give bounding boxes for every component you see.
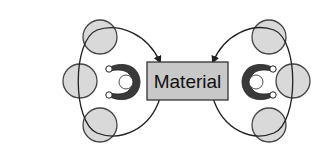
right-person-icon: [242, 64, 276, 99]
right-person-head-icon: [249, 75, 263, 89]
material-handling-diagram: Material: [0, 0, 319, 151]
left-middle-position-circle: [63, 64, 97, 98]
left-station: [63, 20, 160, 142]
material-label: Material: [154, 71, 222, 92]
left-person-head-icon: [119, 75, 133, 89]
right-top-position-circle: [252, 20, 286, 54]
material-box: Material: [147, 62, 228, 100]
right-bottom-position-circle: [252, 108, 286, 142]
left-person-icon: [106, 64, 140, 99]
